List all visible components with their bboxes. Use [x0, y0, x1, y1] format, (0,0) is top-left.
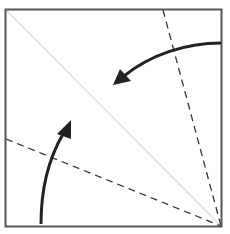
background — [0, 0, 230, 234]
origami-diagram: Origami fold diagram: fold two edges to … — [0, 0, 230, 234]
